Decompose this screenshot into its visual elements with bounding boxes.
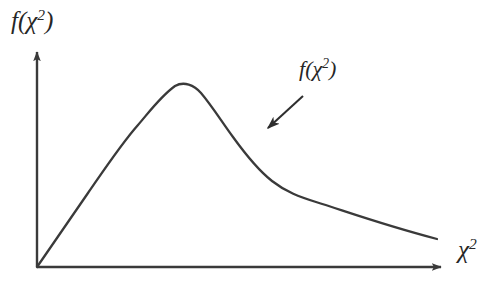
y-axis-label: f(χ2) [11,8,53,33]
curve-annotation-label: f(χ2) [299,58,336,80]
curve-annotation-variable: χ [312,56,322,81]
plot-canvas [0,0,490,281]
x-axis-label-exponent: 2 [469,235,477,252]
axes-group [37,52,441,267]
x-axis-label-variable: χ [458,236,469,263]
x-axis-label: χ2 [458,237,477,262]
curve-annotation-exponent: 2 [322,56,329,71]
y-axis-label-close-paren: ) [45,7,53,34]
chi-square-density-curve [37,84,437,267]
y-axis-label-exponent: 2 [37,6,45,23]
chi-square-distribution-figure: f(χ2) f(χ2) χ2 [0,0,490,281]
density-curve-group [37,84,437,267]
curve-annotation-arrow [268,96,303,128]
y-axis-label-function: f [11,7,18,34]
y-axis-label-variable: χ [26,7,37,34]
curve-annotation-close-paren: ) [329,56,336,81]
curve-annotation-arrow-group [268,96,303,128]
